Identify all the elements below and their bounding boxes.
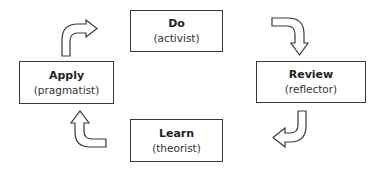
curved-arrow-down-icon xyxy=(272,18,308,55)
arrows-layer xyxy=(0,0,368,170)
curved-arrow-right-icon xyxy=(62,20,97,56)
curved-arrow-left-icon xyxy=(273,111,306,147)
curved-arrow-up-icon xyxy=(71,111,106,147)
